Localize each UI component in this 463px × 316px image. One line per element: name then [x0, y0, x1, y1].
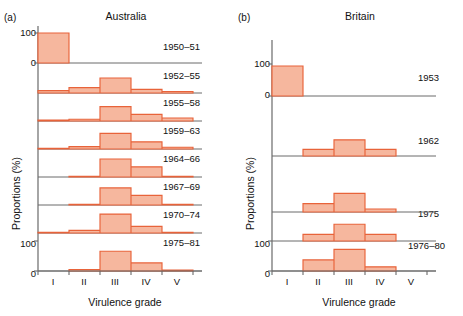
panel-britain: (b) Britain Proportions (%) Virulence gr… — [232, 0, 463, 316]
bar-group-row-3 — [303, 224, 396, 241]
bar-group-row-2 — [38, 107, 193, 121]
bar-group-row-5 — [69, 188, 193, 205]
bar-group-row-6 — [38, 214, 193, 233]
plot-area-britain — [232, 0, 463, 316]
bar-group-row-0 — [272, 66, 303, 96]
bar-group-row-2 — [303, 193, 396, 212]
bar-group-row-4 — [69, 159, 193, 177]
bar-group-row-4 — [303, 249, 396, 271]
bar-group-row-3 — [38, 133, 193, 149]
bar-group-row-0 — [38, 33, 69, 63]
panel-australia: (a) Australia Proportions (%) Virulence … — [0, 0, 232, 316]
bar-group-row-7 — [69, 251, 193, 271]
figure-myxoma-virulence: (a) Australia Proportions (%) Virulence … — [0, 0, 463, 316]
bar-group-row-1 — [303, 140, 396, 156]
bar-group-row-1 — [38, 78, 193, 93]
plot-area-australia — [0, 0, 232, 316]
